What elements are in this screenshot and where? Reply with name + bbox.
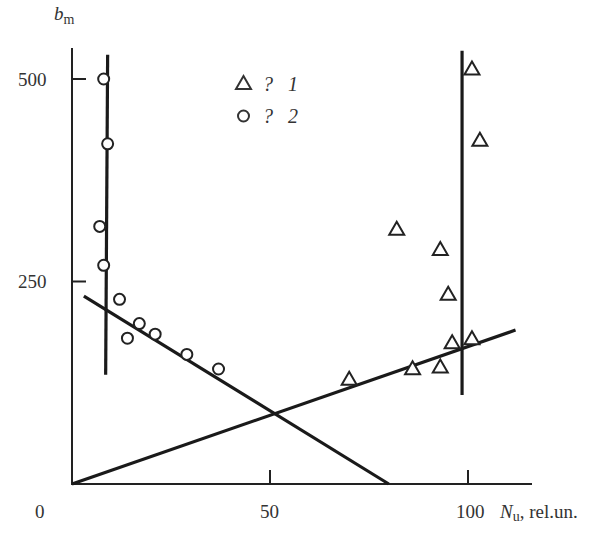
circle-point-icon <box>181 349 192 360</box>
x-axis-title-sub: u <box>513 509 520 524</box>
triangle-point-icon <box>389 222 404 235</box>
increasing-fit-line <box>72 330 516 484</box>
triangle-point-icon <box>464 331 479 344</box>
legend-prefix-1: ? <box>263 73 273 95</box>
triangle-point-icon <box>472 133 487 146</box>
triangle-point-icon <box>342 372 357 385</box>
x-axis-title-unit: , rel.un. <box>520 501 578 522</box>
circle-point-icon <box>114 294 125 305</box>
triangle-marker-icon <box>236 76 251 89</box>
legend-label-1: 1 <box>288 73 298 95</box>
circle-point-icon <box>98 74 109 85</box>
circle-point-icon <box>98 260 109 271</box>
legend-item-1: ? 1 <box>236 73 298 95</box>
x-axis-title: Nu, rel.un. <box>499 501 578 524</box>
circle-point-icon <box>213 363 224 374</box>
y-axis-title-main: b <box>54 3 64 24</box>
triangle-point-icon <box>433 242 448 255</box>
vertical-line-series-2 <box>106 55 108 375</box>
legend: ? 1 ? 2 <box>236 73 298 127</box>
y-axis-title-sub: m <box>64 12 75 27</box>
triangle-point-icon <box>464 61 479 74</box>
y-tick-label-250: 250 <box>18 271 47 292</box>
triangle-point-icon <box>445 335 460 348</box>
circle-point-icon <box>94 221 105 232</box>
triangle-point-icon <box>433 360 448 373</box>
circle-point-icon <box>102 138 113 149</box>
circle-point-icon <box>134 318 145 329</box>
circle-point-icon <box>150 329 161 340</box>
y-tick-label-500: 500 <box>18 69 47 90</box>
triangle-point-icon <box>441 287 456 300</box>
legend-item-2: ? 2 <box>238 105 298 127</box>
circle-point-icon <box>122 333 133 344</box>
legend-prefix-2: ? <box>263 105 273 127</box>
y-axis-title: bm <box>54 3 75 27</box>
x-tick-label-50: 50 <box>260 501 279 522</box>
chart: ? 1 ? 2 bm 500 250 0 50 100 Nu, rel.un. <box>0 0 600 536</box>
x-tick-label-100: 100 <box>456 501 485 522</box>
circle-marker-icon <box>238 111 249 122</box>
x-tick-label-0: 0 <box>35 501 45 522</box>
legend-label-2: 2 <box>288 105 298 127</box>
